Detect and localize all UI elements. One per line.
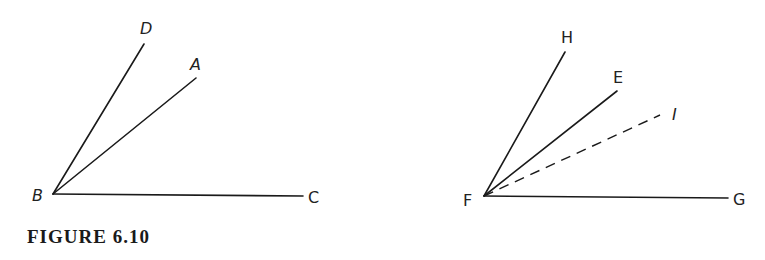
left-angle-figure: B D A C — [32, 19, 319, 207]
point-label-G: G — [733, 190, 745, 209]
point-label-F: F — [463, 191, 472, 210]
point-label-I: I — [672, 105, 677, 124]
point-label-D: D — [140, 19, 152, 38]
ray-BC — [53, 194, 303, 196]
figure-caption: FIGURE 6.10 — [27, 226, 150, 248]
point-label-A: A — [189, 55, 201, 74]
ray-BD — [53, 44, 144, 194]
right-angle-figure: F H E I G — [463, 28, 745, 210]
point-label-H: H — [561, 28, 573, 47]
figure-canvas: B D A C F H E I G — [0, 0, 765, 260]
point-label-E: E — [613, 68, 623, 87]
point-label-C: C — [308, 188, 319, 207]
point-label-B: B — [32, 186, 43, 205]
ray-FH — [484, 52, 565, 196]
ray-FG — [484, 196, 728, 198]
ray-BA — [53, 78, 196, 194]
